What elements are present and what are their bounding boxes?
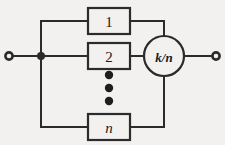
figure-canvas: 1 2 n k/n <box>0 0 225 145</box>
ellipsis-dot-3 <box>105 97 113 105</box>
input-terminal[interactable] <box>5 52 12 59</box>
block-1-label: 1 <box>105 14 113 30</box>
output-terminal[interactable] <box>212 52 219 59</box>
diagram-svg: 1 2 n k/n <box>0 0 225 145</box>
ellipsis-dot-1 <box>105 71 113 79</box>
ellipsis-dot-2 <box>105 84 113 92</box>
junction-node <box>37 52 45 60</box>
block-2-label: 2 <box>105 49 113 65</box>
block-n-label: n <box>105 120 113 136</box>
gain-block[interactable]: k/n <box>144 36 184 76</box>
gain-label: k/n <box>155 50 172 65</box>
block-n[interactable]: n <box>88 114 130 140</box>
vertical-ellipsis-icon <box>105 71 113 105</box>
block-1[interactable]: 1 <box>88 8 130 34</box>
block-2[interactable]: 2 <box>88 43 130 69</box>
